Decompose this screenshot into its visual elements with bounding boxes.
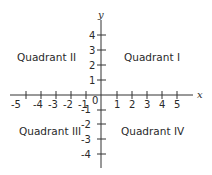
x-axis-label: x (197, 89, 203, 100)
x-tick-label: -2 (63, 99, 73, 110)
quadrant-3-label: Quadrant III (19, 125, 81, 137)
x-tick-label: -4 (33, 99, 43, 110)
x-tick-label: 5 (174, 99, 180, 110)
x-tick-label: 4 (159, 99, 165, 110)
y-tick-label: -1 (81, 104, 91, 115)
y-tick-label: -2 (81, 119, 91, 130)
quadrant-2-label: Quadrant II (17, 51, 76, 63)
y-tick-label: 2 (89, 60, 95, 71)
y-tick-label: 4 (89, 30, 95, 41)
x-tick-label: -5 (11, 99, 21, 110)
y-tick-label: -4 (81, 149, 91, 160)
x-tick-label: 3 (144, 99, 150, 110)
x-tick-labels-positive: 1 2 3 4 5 (114, 99, 180, 110)
y-tick-label: 3 (89, 45, 95, 56)
quadrant-4-label: Quadrant IV (121, 125, 185, 137)
origin-label: 0 (92, 95, 98, 106)
x-tick-label: 2 (129, 99, 135, 110)
x-tick-label: 1 (114, 99, 120, 110)
quadrant-1-label: Quadrant I (124, 51, 180, 63)
y-tick-label: 1 (89, 75, 95, 86)
x-tick-labels-negative: -5 -4 -3 -2 -1 (11, 99, 88, 110)
coordinate-plane-svg: x y -5 -4 -3 -2 -1 0 1 (0, 0, 212, 175)
y-tick-labels-positive: 4 3 2 1 (89, 30, 95, 86)
y-tick-labels-negative: -1 -2 -3 -4 (81, 104, 91, 160)
y-axis-label: y (97, 9, 104, 20)
y-tick-label: -3 (81, 134, 91, 145)
x-tick-label: -3 (48, 99, 58, 110)
coordinate-plane-diagram: x y -5 -4 -3 -2 -1 0 1 (0, 0, 212, 175)
